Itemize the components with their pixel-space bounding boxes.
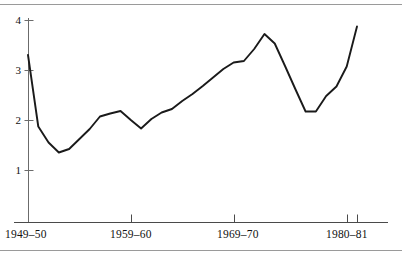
data-line <box>28 27 357 153</box>
chart-figure: 4 3 2 1 1949–50 1959–60 1969–70 1980–81 <box>0 0 402 256</box>
axis-lines <box>14 18 388 223</box>
x-tick-label-1980-81: 1980–81 <box>326 229 368 241</box>
x-axis-ticks <box>132 215 358 223</box>
y-tick-label-4: 4 <box>5 15 21 26</box>
y-tick-label-3: 3 <box>5 65 21 76</box>
x-tick-label-1969-70: 1969–70 <box>217 229 259 241</box>
x-tick-label-1959-60: 1959–60 <box>110 229 152 241</box>
y-tick-label-1: 1 <box>5 165 21 176</box>
line-chart-plot <box>0 0 402 256</box>
y-tick-label-2: 2 <box>5 115 21 126</box>
x-tick-label-1949-50: 1949–50 <box>5 229 47 241</box>
